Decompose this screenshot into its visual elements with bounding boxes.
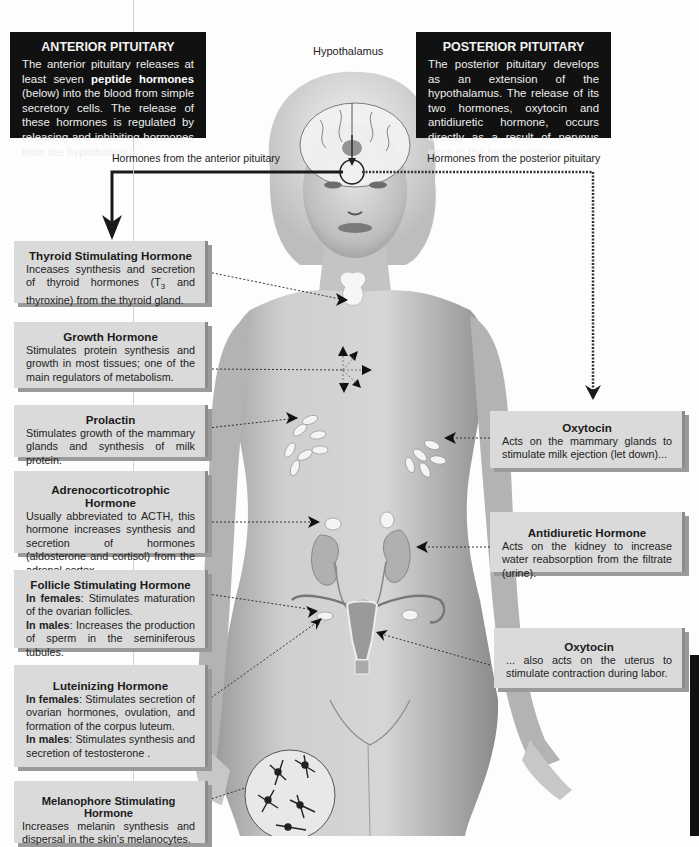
ovary-icon xyxy=(317,612,333,620)
kidney-left-icon xyxy=(312,535,339,585)
posterior-title: POSTERIOR PITUITARY xyxy=(428,40,599,54)
card-growth-hormone: Growth Hormone Stimulates protein synthe… xyxy=(14,322,208,388)
card-oxytocin-mammary: Oxytocin Acts on the mammary glands to s… xyxy=(490,411,685,468)
hypothalamus-label: Hypothalamus xyxy=(313,45,383,57)
card-antidiuretic-hormone: Antidiuretic Hormone Acts on the kidney … xyxy=(490,512,685,572)
card-melanophore-stimulating-hormone: Melanophore Stimulating Hormone Increase… xyxy=(14,781,208,843)
melanocyte-icon xyxy=(245,750,335,836)
card-thyroid-stimulating-hormone: Thyroid Stimulating Hormone Inceases syn… xyxy=(14,241,208,303)
posterior-body: The posterior pituitary develops as an e… xyxy=(428,57,599,159)
anterior-path-label: Hormones from the anterior pituitary xyxy=(112,152,280,164)
anterior-body: The anterior pituitary releases at least… xyxy=(22,57,194,159)
anterior-pituitary-box: ANTERIOR PITUITARY The anterior pituitar… xyxy=(10,32,206,138)
posterior-pituitary-box: POSTERIOR PITUITARY The posterior pituit… xyxy=(416,32,611,138)
page-edge-bar xyxy=(690,655,699,836)
anterior-title: ANTERIOR PITUITARY xyxy=(22,40,194,54)
adrenal-gland-icon xyxy=(325,518,341,530)
card-luteinizing-hormone: Luteinizing Hormone In females: Stimulat… xyxy=(14,665,208,767)
posterior-path-label: Hormones from the posterior pituitary xyxy=(427,152,600,164)
card-follicle-stimulating-hormone: Follicle Stimulating Hormone In females:… xyxy=(14,570,208,648)
card-prolactin: Prolactin Stimulates growth of the mamma… xyxy=(14,405,208,457)
card-oxytocin-uterus: Oxytocin ... also acts on the uterus to … xyxy=(494,628,685,688)
card-adrenocorticotrophic-hormone: Adrenocorticotrophic Hormone Usually abb… xyxy=(14,471,208,553)
